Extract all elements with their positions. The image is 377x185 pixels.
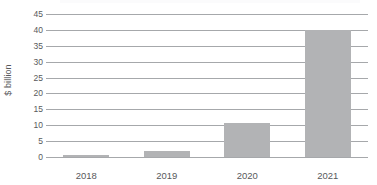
y-axis-title-label: $ billion [3,64,13,95]
plot-area [46,0,368,165]
x-tick-label-2020: 2020 [237,170,258,181]
y-axis-title: $ billion [0,0,16,160]
bar-2019 [144,151,190,157]
y-tick-label-25: 25 [16,73,43,82]
x-tick-label-2021: 2021 [317,170,338,181]
y-tick-label-10: 10 [16,121,43,130]
y-tick-label-20: 20 [16,89,43,98]
x-tick-label-2018: 2018 [76,170,97,181]
x-tick-label-2019: 2019 [156,170,177,181]
bar-chart-figure: $ billion 051015202530354045 20182019202… [0,0,377,185]
y-tick-label-0: 0 [16,153,43,162]
y-tick-label-5: 5 [16,137,43,146]
y-tick-label-35: 35 [16,41,43,50]
bar-2018 [63,155,109,157]
bar-2021 [305,30,351,157]
y-tick-label-30: 30 [16,57,43,66]
y-tick-label-15: 15 [16,105,43,114]
y-tick-label-40: 40 [16,25,43,34]
bars-layer [46,0,368,165]
y-tick-label-45: 45 [16,10,43,19]
bar-2020 [224,123,270,157]
x-axis-tick-labels: 2018201920202021 [46,166,368,185]
y-axis-tick-labels: 051015202530354045 [16,0,43,165]
